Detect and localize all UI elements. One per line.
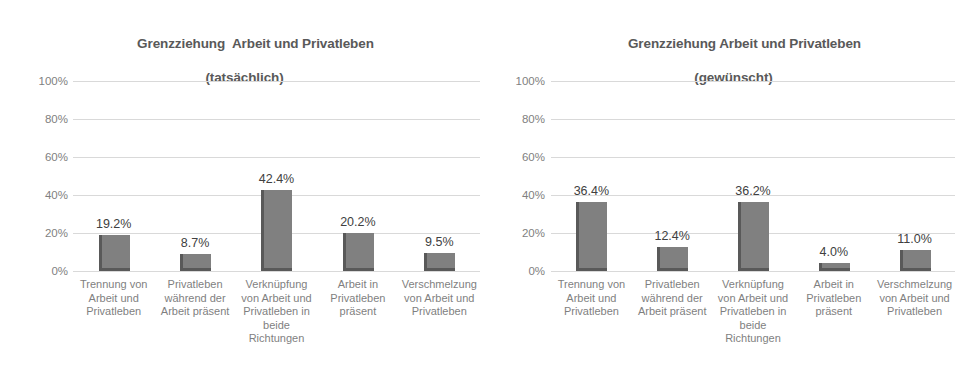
bar-slot: 42.4% [236,81,317,271]
bar[interactable] [576,202,607,271]
x-axis-category-label: Arbeit inPrivatlebenpräsent [317,278,398,319]
x-axis-category-label-line: Richtungen [713,332,794,346]
x-axis-category-label-line: von Arbeit und [874,292,955,306]
x-axis-category-label-line: von Arbeit und [713,292,794,306]
x-axis-category-label-line: Privatleben [73,305,154,319]
x-axis-category-label-line: beide [713,319,794,333]
x-axis-category-label-line: Verschmelzung [399,278,480,292]
x-axis-category-label-line: Arbeit in [317,278,398,292]
bar-slot: 36.4% [551,81,632,271]
x-axis-category-label-line: Arbeit und [551,292,632,306]
x-axis-category-label-line: Privatleben in [713,305,794,319]
x-axis-category-label: Verschmelzungvon Arbeit undPrivatleben [874,278,955,319]
x-axis-category-label: Privatlebenwährend derArbeit präsent [632,278,713,319]
bar[interactable] [180,254,211,271]
y-axis-tick-label: 40% [16,189,68,201]
x-axis-category-label-line: Trennung von [551,278,632,292]
y-axis-tick-label: 60% [16,151,68,163]
x-axis-category-label-line: beide [236,319,317,333]
bar-value-label: 42.4% [236,172,316,186]
bar-value-label: 4.0% [794,245,874,259]
x-axis-category-label-line: Privatleben [632,278,713,292]
dual-bar-chart-figure: Grenzziehung Arbeit und Privatleben (tat… [0,0,978,370]
bar-slot: 20.2% [317,81,398,271]
x-axis-category-label: Verknüpfungvon Arbeit undPrivatleben inb… [713,278,794,346]
x-axis-category-label-line: Privatleben [317,292,398,306]
bar-value-label: 19.2% [74,217,154,231]
bar[interactable] [261,190,292,271]
chart-panel-gewuenscht: Grenzziehung Arbeit und Privatleben (gew… [489,0,978,370]
bar[interactable] [819,263,850,271]
bar[interactable] [900,250,931,271]
chart-title-left-line1: Grenzziehung Arbeit und Privatleben [137,36,374,51]
x-axis-category-label: Arbeit inPrivatlebenpräsent [793,278,874,319]
bar-value-label: 11.0% [875,232,955,246]
bar[interactable] [738,202,769,271]
y-axis-tick-label: 20% [16,227,68,239]
bar-slot: 8.7% [154,81,235,271]
bar-value-label: 9.5% [399,235,479,249]
bar[interactable] [657,247,688,271]
x-axis-category-label-line: während der [632,292,713,306]
bar-value-label: 8.7% [155,236,235,250]
bar-value-label: 12.4% [632,229,712,243]
x-axis-category-label-line: präsent [317,305,398,319]
bar-slot: 36.2% [713,81,794,271]
x-axis-category-label: Verschmelzungvon Arbeit undPrivatleben [399,278,480,319]
bar-value-label: 20.2% [318,215,398,229]
y-axis-tick-label: 100% [493,75,545,87]
x-axis-category-label: Trennung vonArbeit undPrivatleben [551,278,632,319]
y-axis-tick-label: 80% [16,113,68,125]
x-axis-category-label-line: Privatleben [793,292,874,306]
y-axis-tick-label: 60% [493,151,545,163]
x-axis-category-label-line: Privatleben [551,305,632,319]
bar-slot: 11.0% [874,81,955,271]
chart-title-right-line1: Grenzziehung Arbeit und Privatleben [628,36,861,51]
x-axis-category-label-line: Arbeit in [793,278,874,292]
x-axis-category-label-line: Verknüpfung [713,278,794,292]
plot-area-left: 19.2%8.7%42.4%20.2%9.5% [73,81,480,271]
bar-slot: 9.5% [399,81,480,271]
x-axis-category-label-line: während der [154,292,235,306]
x-axis-category-label-line: Arbeit präsent [632,305,713,319]
bar-slot: 12.4% [632,81,713,271]
x-axis-category-label-line: Privatleben [874,305,955,319]
x-axis-category-label-line: Trennung von [73,278,154,292]
plot-area-right: 36.4%12.4%36.2%4.0%11.0% [551,81,955,271]
x-axis-category-label-line: Privatleben [154,278,235,292]
x-axis-category-label-line: von Arbeit und [236,292,317,306]
gridline-0 [73,271,480,272]
bar[interactable] [343,233,374,271]
x-axis-category-label-line: präsent [793,305,874,319]
y-axis-tick-label: 20% [493,227,545,239]
bar-value-label: 36.4% [551,184,631,198]
bar[interactable] [99,235,130,271]
x-axis-category-label-line: Privatleben in [236,305,317,319]
x-axis-category-label: Privatlebenwährend derArbeit präsent [154,278,235,319]
y-axis-tick-label: 40% [493,189,545,201]
bar-value-label: 36.2% [713,184,793,198]
bar[interactable] [424,253,455,271]
x-axis-category-label-line: Arbeit präsent [154,305,235,319]
bar-slot: 19.2% [73,81,154,271]
x-axis-category-label: Trennung vonArbeit undPrivatleben [73,278,154,319]
x-axis-category-label-line: Verknüpfung [236,278,317,292]
x-axis-category-label-line: Arbeit und [73,292,154,306]
x-axis-category-label-line: Richtungen [236,332,317,346]
bar-slot: 4.0% [793,81,874,271]
chart-panel-tatsaechlich: Grenzziehung Arbeit und Privatleben (tat… [0,0,489,370]
x-axis-category-label-line: Verschmelzung [874,278,955,292]
y-axis-tick-label: 0% [16,265,68,277]
y-axis-tick-label: 0% [493,265,545,277]
gridline-0 [551,271,955,272]
x-axis-category-label-line: Privatleben [399,305,480,319]
y-axis-tick-label: 80% [493,113,545,125]
y-axis-tick-label: 100% [16,75,68,87]
x-axis-category-label: Verknüpfungvon Arbeit undPrivatleben inb… [236,278,317,346]
x-axis-category-label-line: von Arbeit und [399,292,480,306]
